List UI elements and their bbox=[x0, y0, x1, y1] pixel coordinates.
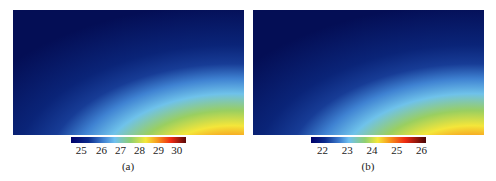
tick-label: 29 bbox=[153, 144, 164, 156]
heatmap-a bbox=[13, 10, 244, 135]
tick-label: 22 bbox=[317, 144, 328, 156]
colorbar-b bbox=[311, 137, 426, 143]
caption-b: (b) bbox=[362, 160, 375, 172]
tick-label: 23 bbox=[342, 144, 353, 156]
tick-label: 24 bbox=[366, 144, 377, 156]
tick-label: 26 bbox=[96, 144, 107, 156]
colorbar-b-ticks: 22 23 24 25 26 bbox=[311, 144, 426, 158]
tick-label: 25 bbox=[391, 144, 402, 156]
tick-label: 27 bbox=[115, 144, 126, 156]
tick-label: 25 bbox=[76, 144, 87, 156]
tick-label: 26 bbox=[416, 144, 427, 156]
heatmap-b bbox=[253, 10, 484, 135]
tick-label: 30 bbox=[171, 144, 182, 156]
colorbar-a-ticks: 25 26 27 28 29 30 bbox=[71, 144, 186, 158]
tick-label: 28 bbox=[134, 144, 145, 156]
caption-a: (a) bbox=[122, 160, 134, 172]
colorbar-a bbox=[71, 137, 186, 143]
